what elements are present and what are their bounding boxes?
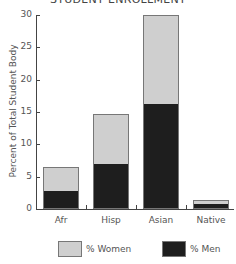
men-segment: [194, 204, 228, 208]
men-swatch: [162, 241, 186, 257]
y-tick-label: 0: [10, 203, 32, 213]
legend-men: % Men: [162, 241, 220, 257]
y-tick: [36, 209, 40, 210]
x-tick-label: Asian: [136, 215, 186, 225]
y-tick: [36, 15, 40, 16]
legend-women: % Women: [58, 241, 131, 257]
bar-native: [193, 200, 229, 209]
bar-hisp: [93, 114, 129, 209]
y-tick-label: 5: [10, 171, 32, 181]
y-tick-label: 30: [10, 9, 32, 19]
women-swatch: [58, 241, 82, 257]
x-axis: [36, 209, 234, 210]
y-tick: [36, 47, 40, 48]
men-segment: [144, 104, 178, 208]
y-tick-label: 25: [10, 41, 32, 51]
legend-men-label: % Men: [190, 244, 220, 254]
x-tick-label: Afr: [36, 215, 86, 225]
x-tick: [86, 205, 87, 209]
y-tick-label: 10: [10, 138, 32, 148]
y-tick: [36, 80, 40, 81]
women-segment: [144, 16, 178, 104]
y-tick: [36, 144, 40, 145]
women-segment: [94, 115, 128, 164]
bar-afr: [43, 167, 79, 209]
y-tick-label: 15: [10, 106, 32, 116]
x-tick: [186, 205, 187, 209]
y-tick-label: 20: [10, 74, 32, 84]
y-tick: [36, 112, 40, 113]
men-segment: [44, 191, 78, 208]
x-tick: [136, 205, 137, 209]
x-tick-label: Hisp: [86, 215, 136, 225]
women-segment: [44, 168, 78, 191]
legend-women-label: % Women: [86, 244, 131, 254]
y-tick: [36, 177, 40, 178]
chart-title: STUDENT ENROLLMENT: [0, 0, 236, 6]
bar-asian: [143, 15, 179, 209]
x-tick-label: Native: [186, 215, 236, 225]
men-segment: [94, 164, 128, 208]
